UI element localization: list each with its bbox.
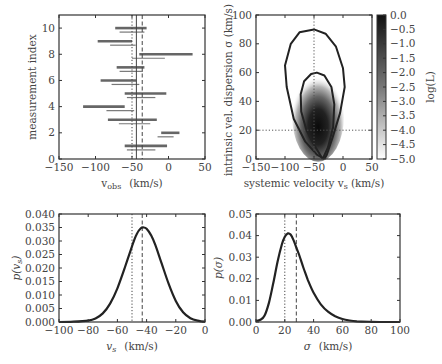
panel-measurements: −150−100−500500246810 vobs(km/s) measure…	[26, 15, 212, 191]
colorbar-tick-label: −4.5	[390, 138, 416, 150]
x-tick-label: −50	[121, 161, 143, 173]
reference-lines	[132, 15, 142, 159]
marginal-sigma-curve	[256, 214, 400, 322]
y-tick-label: 0	[48, 153, 55, 165]
x-tick-label: −60	[106, 324, 128, 336]
x-tick-label: −40	[136, 324, 158, 336]
y-axis-label: p(σ)	[212, 257, 224, 279]
y-tick-label: 60	[239, 66, 252, 78]
x-tick-label: 0	[340, 161, 347, 173]
y-tick-label: 0.030	[25, 235, 55, 247]
y-tick-label: 8	[48, 48, 55, 60]
y-tick-label: 0.015	[25, 275, 55, 287]
y-tick-label: 0.025	[25, 248, 55, 260]
x-tick-label: −100	[271, 161, 300, 173]
x-tick-label: 80	[365, 324, 378, 336]
y-tick-label: 0.01	[229, 294, 252, 306]
y-tick-label: 0.02	[229, 272, 252, 284]
y-tick-label: 0.040	[25, 208, 55, 220]
y-tick-label: 0	[245, 153, 252, 165]
x-tick-label: 60	[336, 324, 349, 336]
x-tick-label: 40	[307, 324, 320, 336]
x-axis-label: vobs(km/s)	[100, 177, 162, 191]
colorbar-tick-label: −1.0	[390, 37, 416, 49]
x-tick-label: 50	[365, 161, 378, 173]
colorbar-tick-label: −0.5	[390, 23, 416, 35]
panel-marginal-sigma: 0204060801000.000.010.020.030.040.05 σ(k…	[212, 208, 410, 353]
y-tick-label: 0.04	[229, 229, 253, 241]
colorbar-ticks: 0.0−0.5−1.0−1.5−2.0−2.5−3.0−3.5−4.0−4.5−…	[383, 9, 416, 165]
colorbar-tick-label: −4.0	[390, 124, 416, 136]
x-axis-label: vs(km/s)	[106, 340, 158, 354]
y-axis-label: intrinsic vel. dispersion σ (km/s)	[222, 4, 234, 176]
y-tick-label: 6	[48, 74, 55, 86]
y-tick-label: 40	[239, 95, 252, 107]
colorbar-tick-label: −2.5	[390, 81, 416, 93]
colorbar-tick-label: −3.0	[390, 95, 416, 107]
panel-likelihood: −150−100−50050020406080100 systemic velo…	[222, 4, 436, 191]
colorbar-tick-label: −3.5	[390, 109, 416, 121]
panel-marginal-vs: −100−80−60−40−2000.0000.0050.0100.0150.0…	[10, 208, 208, 355]
colorbar-tick-label: 0.0	[390, 9, 407, 21]
colorbar-tick-label: −1.5	[390, 52, 416, 64]
x-tick-label: −20	[165, 324, 187, 336]
y-tick-label: 0.035	[25, 221, 55, 233]
y-tick-label: 0.020	[25, 262, 55, 274]
y-tick-label: 0.010	[25, 289, 55, 301]
y-tick-label: 4	[48, 100, 55, 112]
figure: −150−100−500500246810 vobs(km/s) measure…	[0, 0, 442, 364]
measurement-bars	[83, 28, 193, 150]
y-tick-label: 2	[48, 126, 55, 138]
y-tick-label: 80	[239, 37, 252, 49]
likelihood-map	[256, 15, 372, 162]
y-tick-label: 20	[239, 124, 252, 136]
y-tick-label: 0.03	[229, 251, 252, 263]
colorbar-tick-label: −2.0	[390, 66, 416, 78]
y-tick-label: 10	[42, 22, 55, 34]
x-tick-label: −100	[81, 161, 110, 173]
x-tick-label: 20	[278, 324, 291, 336]
colorbar-label: log(L)	[424, 71, 436, 103]
y-tick-label: 0.00	[229, 316, 252, 328]
x-axis-label: systemic velocity vs(km/s)	[244, 177, 385, 191]
y-tick-label: 100	[232, 9, 252, 21]
y-tick-label: 0.000	[25, 316, 55, 328]
x-tick-label: 100	[390, 324, 410, 336]
y-axis-label: p(vs)	[10, 256, 24, 281]
x-tick-label: 0	[253, 324, 260, 336]
y-tick-label: 0.05	[229, 208, 252, 220]
x-tick-label: 0	[165, 161, 172, 173]
axes-frame	[256, 214, 400, 322]
x-tick-label: −50	[303, 161, 325, 173]
x-axis-label: σ(km/s)	[304, 340, 353, 352]
marginal-vs-curve	[59, 214, 205, 322]
x-tick-label: −80	[77, 324, 99, 336]
y-tick-label: 0.005	[25, 302, 55, 314]
x-tick-label: 0	[202, 324, 209, 336]
density-curve	[256, 233, 400, 322]
y-axis-label: measurement index	[26, 34, 38, 139]
likelihood-density	[292, 70, 344, 162]
axis-ticks: −100−80−60−40−2000.0000.0050.0100.0150.0…	[25, 208, 208, 337]
x-tick-label: 50	[198, 161, 211, 173]
colorbar-tick-label: −5.0	[390, 153, 416, 165]
